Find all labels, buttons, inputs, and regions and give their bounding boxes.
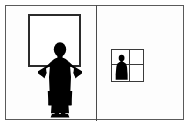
small-quartered-square (111, 49, 144, 82)
panel-right (97, 5, 184, 121)
diagram-title: Person holding a blank square canvas bes… (0, 21, 1, 22)
standing-person-silhouette (5, 5, 96, 121)
panel-divider (96, 5, 97, 121)
diagram-canvas: Person holding a blank square canvas bes… (0, 0, 189, 128)
bust-person-silhouette (112, 50, 143, 81)
panel-left (5, 5, 96, 121)
